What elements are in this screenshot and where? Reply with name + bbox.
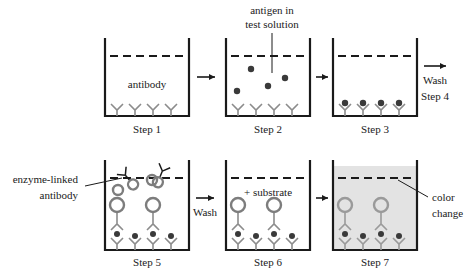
antibody-group: [232, 104, 298, 116]
antigen-dot: [360, 233, 366, 239]
enzyme-circle: [110, 198, 124, 212]
free-enzyme-circle: [113, 185, 123, 195]
antigen-label-line1: antigen in: [250, 4, 294, 16]
arrow-step2-step3: [316, 74, 328, 80]
antigen-dot: [234, 88, 240, 94]
bound-complex: [267, 198, 281, 250]
free-enzyme-antibody-group: [113, 163, 170, 195]
bound-complex: [146, 198, 160, 250]
enzyme-circle: [231, 198, 245, 212]
step2-caption: Step 2: [254, 123, 282, 135]
antigen-dot: [342, 100, 348, 106]
step1-inner-label: antibody: [128, 78, 167, 90]
bound-complex: [110, 198, 124, 250]
antigen-dot: [378, 100, 384, 106]
step7-caption: Step 7: [361, 256, 389, 268]
step6-inner-label: + substrate: [244, 186, 292, 198]
free-enzyme-antibody: [117, 167, 141, 192]
antigen-dot: [132, 233, 138, 239]
step1-caption: Step 1: [133, 123, 161, 135]
antigen-dot: [150, 231, 156, 237]
arrow-step6-step7: [316, 195, 328, 201]
well-step7: color change Step 7: [333, 160, 463, 268]
antigen-dot: [289, 233, 295, 239]
step6-caption: Step 6: [254, 256, 282, 268]
antibody-group: [111, 104, 177, 116]
color-change-line1: color: [432, 191, 455, 203]
arrow-step1-step2: [197, 74, 215, 80]
antibody-antigen-pair: [286, 233, 298, 250]
bound-complex-group: [110, 198, 177, 250]
antigen-dot: [271, 231, 277, 237]
antigen-dot: [342, 231, 348, 237]
antigen-dot: [282, 75, 288, 81]
enzyme-label-line2: antibody: [40, 189, 79, 201]
wash-step4-label-line1: Wash: [423, 74, 448, 86]
antigen-group: [234, 66, 288, 94]
antigen-dot: [253, 233, 259, 239]
color-change-line2: change: [432, 207, 463, 219]
enzyme-circle: [267, 198, 281, 212]
antigen-dot: [360, 100, 366, 106]
enzyme-label-line1: enzyme-linked: [13, 173, 79, 185]
antibody-antigen-pair: [129, 233, 141, 250]
antigen-dot: [114, 231, 120, 237]
well-step2: antigen in test solution Step 2: [226, 4, 310, 135]
antibody-antigen-pair: [165, 233, 177, 250]
antigen-dot: [396, 233, 402, 239]
elisa-diagram-page: antibody Step 1: [0, 0, 473, 276]
arrow-step3-step4: Wash Step 4: [421, 63, 449, 102]
antigen-dot: [265, 83, 271, 89]
bound-complex-group: [231, 198, 298, 250]
elisa-diagram-canvas: antibody Step 1: [0, 0, 473, 276]
well-step5: enzyme-linked antibody Step 5: [13, 160, 189, 268]
well-step6: + substrate: [226, 160, 310, 268]
bound-complex: [231, 198, 245, 250]
antigen-dot: [168, 233, 174, 239]
well-step3: Step 3: [333, 38, 417, 135]
antigen-dot: [235, 231, 241, 237]
arrow-step5-step6: Wash: [193, 195, 218, 218]
well-step1: antibody Step 1: [105, 38, 189, 135]
antigen-dot: [378, 231, 384, 237]
wash-label-step5: Wash: [193, 206, 218, 218]
antigen-dot: [396, 100, 402, 106]
antibody-group: [339, 104, 405, 116]
wash-step4-label-line2: Step 4: [421, 90, 449, 102]
antigen-label-line2: test solution: [245, 18, 299, 30]
enzyme-circle: [146, 198, 160, 212]
antigen-dot: [248, 66, 254, 72]
step3-caption: Step 3: [361, 123, 389, 135]
antibody-antigen-pair: [250, 233, 262, 250]
step5-caption: Step 5: [133, 256, 161, 268]
